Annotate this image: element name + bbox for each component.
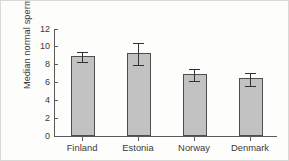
y-tick-3: 6 xyxy=(54,82,58,83)
x-label-finland: Finland xyxy=(51,142,113,154)
y-tick-4: 8 xyxy=(54,64,58,65)
error-cap-top-estonia xyxy=(133,43,144,44)
error-cap-bottom-norway xyxy=(189,81,200,82)
y-tick-label-5: 10 xyxy=(40,40,50,52)
error-bar-denmark xyxy=(250,73,251,86)
x-label-norway: Norway xyxy=(163,142,225,154)
error-bar-estonia xyxy=(138,43,139,65)
y-axis-title: Median normal spermatozoa (%) xyxy=(22,0,36,97)
y-tick-label-6: 12 xyxy=(40,23,50,35)
y-tick-1: 2 xyxy=(54,118,58,119)
x-label-estonia: Estonia xyxy=(107,142,169,154)
y-tick-6: 12 xyxy=(54,29,58,30)
y-tick-label-2: 4 xyxy=(45,94,50,106)
x-axis-line xyxy=(54,136,277,137)
y-tick-2: 4 xyxy=(54,100,58,101)
y-tick-label-0: 0 xyxy=(45,130,50,142)
error-cap-bottom-finland xyxy=(77,62,88,63)
error-cap-top-norway xyxy=(189,69,200,70)
error-cap-bottom-estonia xyxy=(133,65,144,66)
error-cap-top-denmark xyxy=(245,73,256,74)
x-tick-2 xyxy=(194,137,195,141)
chart-figure: Median normal spermatozoa (%) 0 2 4 6 8 … xyxy=(0,0,289,161)
error-bar-finland xyxy=(82,52,83,63)
error-bar-norway xyxy=(194,69,195,82)
bar-denmark xyxy=(239,78,263,136)
y-tick-5: 10 xyxy=(54,46,58,47)
error-cap-top-finland xyxy=(77,52,88,53)
y-tick-0: 0 xyxy=(54,136,58,137)
y-tick-label-4: 8 xyxy=(45,58,50,70)
x-tick-3 xyxy=(250,137,251,141)
plot-area: 0 2 4 6 8 10 12 xyxy=(54,29,277,137)
x-label-denmark: Denmark xyxy=(219,142,281,154)
bar-norway xyxy=(183,74,207,136)
x-tick-1 xyxy=(138,137,139,141)
x-tick-0 xyxy=(82,137,83,141)
y-tick-label-1: 2 xyxy=(45,112,50,124)
y-tick-label-3: 6 xyxy=(45,76,50,88)
bar-finland xyxy=(71,56,95,136)
error-cap-bottom-denmark xyxy=(245,86,256,87)
